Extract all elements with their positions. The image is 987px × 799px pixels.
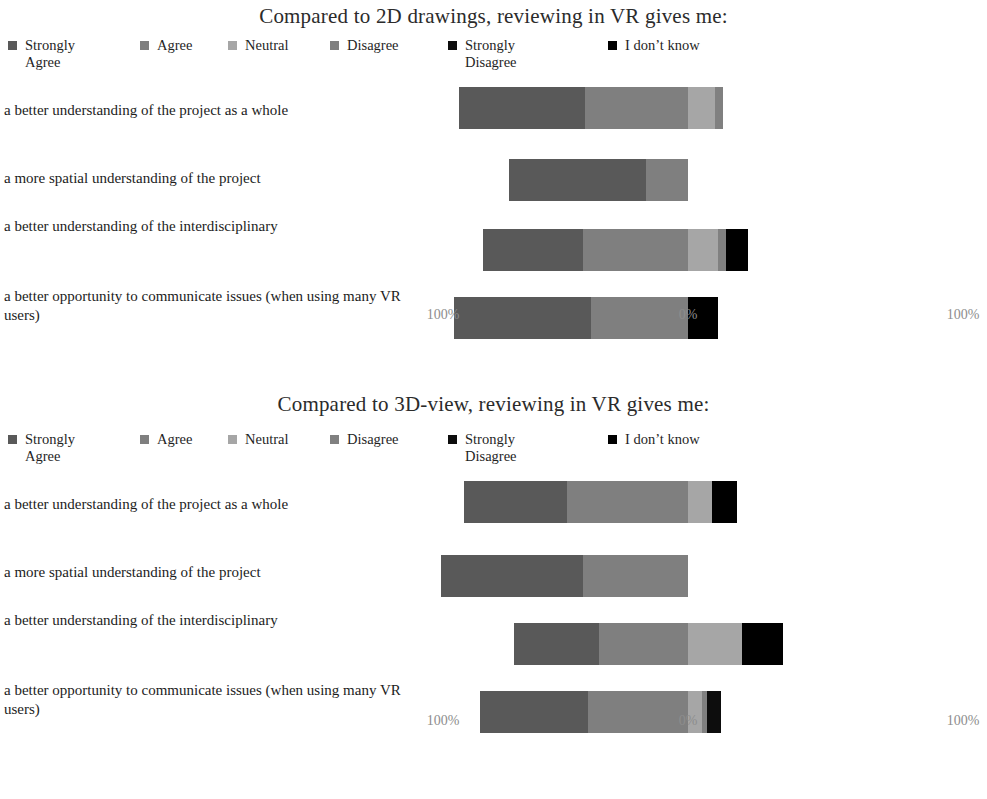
bar-segment-i-don-t-know	[742, 623, 783, 665]
stacked-bar-row	[514, 623, 783, 665]
bar-segment-strongly-agree	[514, 623, 598, 665]
legend-swatch-icon	[140, 41, 149, 50]
legend-item-strongly-agree[interactable]: Strongly Agree	[8, 431, 99, 465]
bar-segment-neutral	[688, 229, 718, 271]
legend-item-agree[interactable]: Agree	[140, 431, 192, 448]
legend-swatch-icon	[608, 435, 617, 444]
legend-item-label: Strongly Disagree	[465, 431, 539, 465]
axis-tick-label: 100%	[947, 713, 980, 729]
legend-item-label: Strongly Agree	[25, 37, 99, 71]
category-label: a more spatial understanding of the proj…	[4, 169, 404, 188]
bar-segment-agree	[585, 87, 688, 129]
bar-segment-strongly-agree	[441, 555, 583, 597]
legend-item-disagree[interactable]: Disagree	[330, 431, 399, 448]
bar-segment-agree	[599, 623, 688, 665]
x-axis-2d: 100%0%100%	[0, 307, 987, 331]
chart-title-3d: Compared to 3D-view, reviewing in VR giv…	[0, 388, 987, 417]
legend-swatch-icon	[448, 435, 457, 444]
legend-swatch-icon	[608, 41, 617, 50]
category-label: a better understanding of the interdisci…	[4, 611, 404, 630]
legend-swatch-icon	[228, 435, 237, 444]
chart-panel-2d: Compared to 2D drawings, reviewing in VR…	[0, 0, 987, 331]
axis-tick-label: 0%	[679, 307, 698, 323]
x-axis-3d: 100%0%100%	[0, 713, 987, 737]
legend-item-label: Disagree	[347, 37, 399, 54]
legend-item-label: I don’t know	[625, 37, 700, 54]
legend-swatch-icon	[8, 41, 17, 50]
bar-segment-strongly-agree	[483, 229, 583, 271]
legend-3d: Strongly AgreeAgreeNeutralDisagreeStrong…	[0, 431, 987, 473]
legend-swatch-icon	[448, 41, 457, 50]
plot-area-3d: a better understanding of the project as…	[0, 473, 987, 713]
legend-item-label: Strongly Agree	[25, 431, 99, 465]
legend-item-label: Strongly Disagree	[465, 37, 539, 71]
legend-item-neutral[interactable]: Neutral	[228, 431, 288, 448]
legend-item-i-don-t-know[interactable]: I don’t know	[608, 37, 700, 54]
legend-swatch-icon	[330, 435, 339, 444]
bar-segment-neutral	[688, 481, 712, 523]
bar-segment-agree	[567, 481, 688, 523]
stacked-bar-row	[483, 229, 748, 271]
legend-item-strongly-agree[interactable]: Strongly Agree	[8, 37, 99, 71]
axis-tick-label: 100%	[427, 307, 460, 323]
legend-item-disagree[interactable]: Disagree	[330, 37, 399, 54]
bar-segment-agree	[583, 229, 688, 271]
axis-tick-label: 100%	[947, 307, 980, 323]
stacked-bar-row	[509, 159, 688, 201]
bar-segment-disagree	[718, 229, 726, 271]
legend-item-label: Neutral	[245, 431, 288, 448]
bar-segment-agree	[583, 555, 688, 597]
bar-segment-strongly-agree	[459, 87, 585, 129]
bar-segment-neutral	[688, 87, 715, 129]
stacked-bar-row	[441, 555, 688, 597]
bar-segment-disagree	[715, 87, 723, 129]
bar-segment-i-don-t-know	[712, 481, 736, 523]
axis-tick-label: 0%	[679, 713, 698, 729]
legend-2d: Strongly AgreeAgreeNeutralDisagreeStrong…	[0, 37, 987, 79]
figure-root: Compared to 2D drawings, reviewing in VR…	[0, 0, 987, 799]
bar-segment-i-don-t-know	[726, 229, 748, 271]
legend-swatch-icon	[330, 41, 339, 50]
category-label: a better understanding of the project as…	[4, 101, 404, 120]
axis-tick-label: 100%	[427, 713, 460, 729]
category-label: a more spatial understanding of the proj…	[4, 563, 404, 582]
stacked-bar-row	[464, 481, 737, 523]
legend-item-label: Disagree	[347, 431, 399, 448]
legend-swatch-icon	[228, 41, 237, 50]
legend-swatch-icon	[140, 435, 149, 444]
bar-segment-agree	[646, 159, 688, 201]
legend-item-label: Neutral	[245, 37, 288, 54]
legend-item-neutral[interactable]: Neutral	[228, 37, 288, 54]
legend-item-label: Agree	[157, 431, 192, 448]
bar-segment-strongly-agree	[464, 481, 567, 523]
chart-panel-3d: Compared to 3D-view, reviewing in VR giv…	[0, 388, 987, 737]
category-label: a better understanding of the project as…	[4, 495, 404, 514]
chart-title-2d: Compared to 2D drawings, reviewing in VR…	[0, 0, 987, 29]
legend-item-label: Agree	[157, 37, 192, 54]
legend-item-agree[interactable]: Agree	[140, 37, 192, 54]
legend-item-i-don-t-know[interactable]: I don’t know	[608, 431, 700, 448]
bar-segment-strongly-agree	[509, 159, 646, 201]
legend-swatch-icon	[8, 435, 17, 444]
category-label: a better understanding of the interdisci…	[4, 217, 404, 236]
bar-segment-neutral	[688, 623, 742, 665]
plot-area-2d: a better understanding of the project as…	[0, 79, 987, 307]
legend-item-strongly-disagree[interactable]: Strongly Disagree	[448, 37, 539, 71]
legend-item-strongly-disagree[interactable]: Strongly Disagree	[448, 431, 539, 465]
legend-item-label: I don’t know	[625, 431, 700, 448]
stacked-bar-row	[459, 87, 723, 129]
